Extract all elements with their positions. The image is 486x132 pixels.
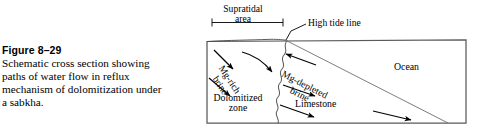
caption-line: Schematic cross section showing xyxy=(2,57,192,70)
figure-caption: Figure 8–29 Schematic cross section show… xyxy=(2,44,192,109)
supratidal-area-label: Supratidal area xyxy=(211,4,275,24)
figure-number: Figure 8–29 xyxy=(2,44,192,56)
ocean-label: Ocean xyxy=(394,62,419,72)
cross-section-diagram: Supratidal area High tide line Ocean Lim… xyxy=(190,0,486,132)
figure-page: Figure 8–29 Schematic cross section show… xyxy=(0,0,486,132)
caption-line: paths of water flow in reflux xyxy=(2,70,192,83)
caption-text: Schematic cross section showing paths of… xyxy=(2,57,192,110)
dolomitized-zone-label: Dolomitized zone xyxy=(207,93,269,114)
caption-line: a sabkha. xyxy=(2,96,192,109)
supratidal-line2: area xyxy=(211,14,275,24)
high-tide-leader-line xyxy=(286,24,306,40)
dolomitized-line2: zone xyxy=(207,103,269,113)
high-tide-line-label: High tide line xyxy=(308,18,361,28)
caption-line: mechanism of dolomitization under xyxy=(2,83,192,96)
